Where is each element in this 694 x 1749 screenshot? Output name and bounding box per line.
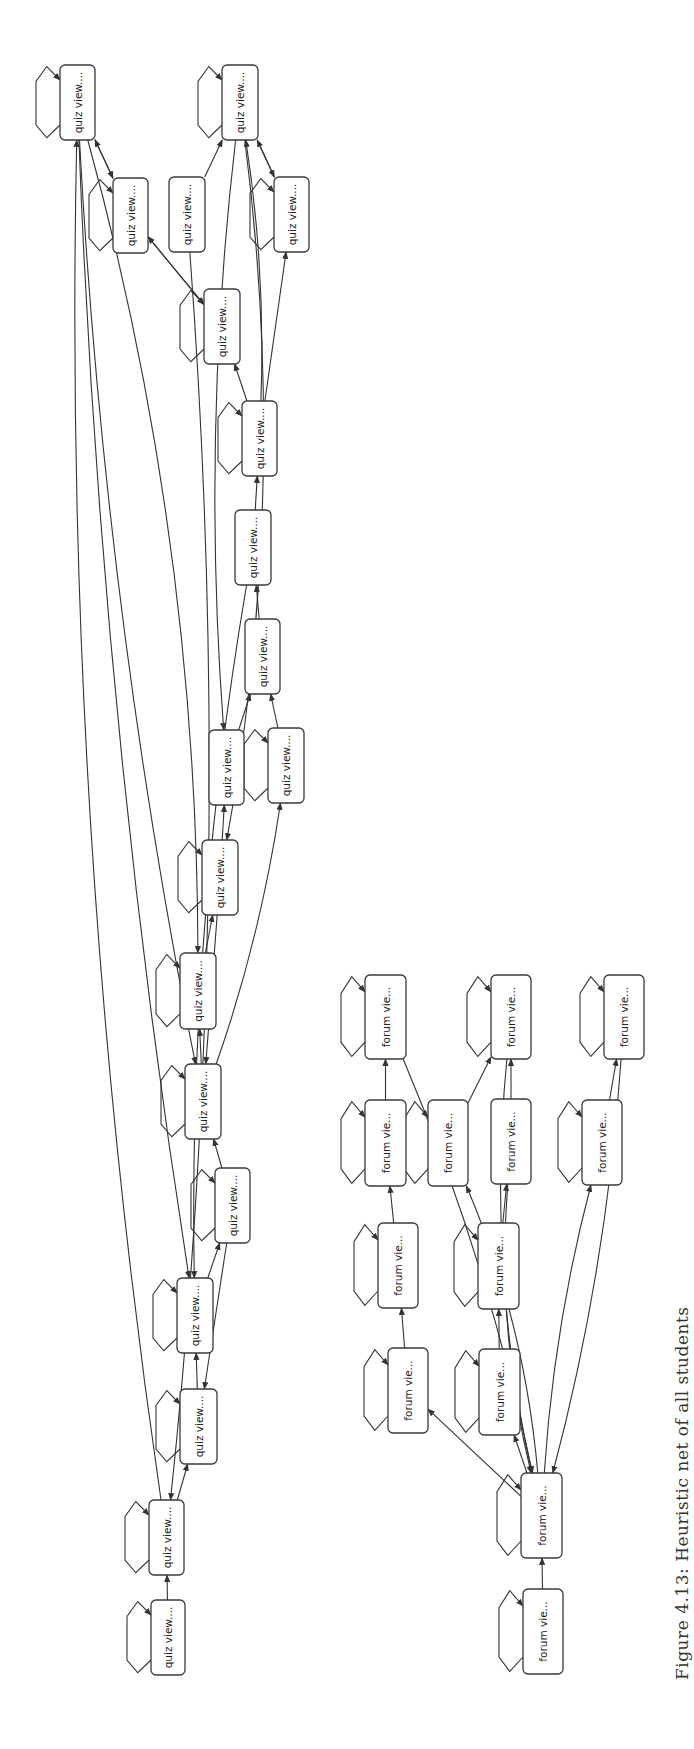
node-F7[interactable]: forum vie... bbox=[582, 1100, 622, 1185]
node-label: quiz view.... bbox=[221, 737, 233, 799]
node-label: quiz view.... bbox=[72, 72, 84, 134]
self-loop-F2 bbox=[467, 977, 491, 1057]
node-F1[interactable]: forum vie... bbox=[365, 975, 406, 1059]
node-Q9[interactable]: quiz view.... bbox=[245, 619, 280, 694]
node-Q13[interactable]: quiz view.... bbox=[180, 953, 216, 1029]
node-Q19[interactable]: quiz view.... bbox=[151, 1600, 185, 1675]
edge-F8-to-F4 bbox=[390, 1186, 394, 1223]
node-label: quiz view.... bbox=[286, 184, 298, 246]
node-F9[interactable]: forum vie... bbox=[478, 1223, 519, 1309]
self-loop-F12 bbox=[497, 1475, 521, 1556]
node-Q15[interactable]: quiz view.... bbox=[215, 1168, 250, 1243]
node-label: quiz view.... bbox=[161, 1507, 173, 1569]
edge-Q15-to-Q14 bbox=[214, 1139, 222, 1168]
node-Q6[interactable]: quiz view.... bbox=[204, 289, 240, 364]
edge-Q7-to-Q5 bbox=[265, 252, 286, 401]
node-Q1[interactable]: quiz view.... bbox=[60, 65, 95, 140]
edge-Q11-to-Q9 bbox=[271, 694, 278, 728]
self-loop-Q18 bbox=[125, 1502, 149, 1573]
node-Q7[interactable]: quiz view.... bbox=[242, 401, 277, 476]
node-F5[interactable]: forum vie... bbox=[428, 1100, 468, 1186]
edge-Q7-to-Q2 bbox=[246, 140, 262, 401]
node-label: quiz view.... bbox=[247, 517, 259, 579]
node-label: quiz view.... bbox=[125, 185, 137, 247]
self-loop-F8 bbox=[354, 1225, 378, 1306]
node-label: quiz view.... bbox=[280, 735, 292, 797]
edge-F12-to-F7 bbox=[544, 1185, 591, 1473]
node-label: forum vie... bbox=[380, 1113, 392, 1173]
self-loop-Q15 bbox=[191, 1170, 215, 1241]
self-loop-Q16 bbox=[153, 1280, 177, 1351]
node-Q12[interactable]: quiz view.... bbox=[202, 840, 238, 915]
node-Q3[interactable]: quiz view.... bbox=[113, 178, 148, 253]
self-loop-Q14 bbox=[161, 1066, 185, 1137]
node-label: quiz view.... bbox=[181, 184, 193, 246]
node-Q2[interactable]: quiz view.... bbox=[222, 65, 258, 140]
node-label: forum vie... bbox=[392, 1235, 404, 1295]
node-Q10[interactable]: quiz view.... bbox=[209, 730, 244, 805]
node-label: forum vie... bbox=[380, 987, 392, 1047]
node-F3[interactable]: forum vie... bbox=[604, 975, 644, 1059]
node-label: quiz view.... bbox=[257, 626, 269, 688]
node-Q8[interactable]: quiz view.... bbox=[235, 510, 271, 585]
self-loop-F1 bbox=[341, 977, 365, 1057]
node-label: quiz view.... bbox=[214, 847, 226, 909]
node-F12[interactable]: forum vie... bbox=[521, 1473, 562, 1558]
node-label: forum vie... bbox=[505, 1111, 517, 1171]
node-label: quiz view.... bbox=[254, 408, 266, 470]
node-label: quiz view.... bbox=[234, 72, 246, 134]
self-loop-F7 bbox=[558, 1102, 582, 1183]
edge-F10-to-F8 bbox=[401, 1308, 404, 1348]
edge-Q1-to-Q14 bbox=[80, 140, 196, 1064]
edge-Q1-to-Q13 bbox=[88, 140, 198, 953]
node-F4[interactable]: forum vie... bbox=[365, 1100, 406, 1186]
node-Q16[interactable]: quiz view.... bbox=[177, 1278, 213, 1353]
self-loop-F10 bbox=[364, 1350, 388, 1431]
edge-Q18-to-Q1 bbox=[75, 140, 161, 1500]
node-F6[interactable]: forum vie... bbox=[491, 1099, 531, 1184]
edge-F5-to-F2 bbox=[468, 1057, 491, 1103]
self-loop-Q1 bbox=[36, 67, 60, 138]
node-label: forum vie... bbox=[618, 987, 630, 1047]
nodes-layer: quiz view....quiz view....quiz view....q… bbox=[60, 65, 644, 1675]
node-label: forum vie... bbox=[442, 1113, 454, 1173]
node-F13[interactable]: forum vie... bbox=[523, 1589, 563, 1674]
node-label: forum vie... bbox=[505, 987, 517, 1047]
edge-Q1-to-Q16 bbox=[79, 140, 189, 1278]
node-label: forum vie... bbox=[596, 1112, 608, 1172]
node-F8[interactable]: forum vie... bbox=[378, 1223, 418, 1308]
node-F10[interactable]: forum vie... bbox=[388, 1348, 428, 1433]
node-label: quiz view.... bbox=[197, 1071, 209, 1133]
self-loop-Q19 bbox=[127, 1602, 151, 1673]
node-Q4[interactable]: quiz view.... bbox=[169, 177, 205, 252]
node-Q11[interactable]: quiz view.... bbox=[268, 728, 304, 803]
node-F11[interactable]: forum vie... bbox=[479, 1349, 520, 1435]
edge-Q17-to-Q16 bbox=[196, 1353, 197, 1389]
node-Q5[interactable]: quiz view.... bbox=[274, 177, 309, 252]
node-F2[interactable]: forum vie... bbox=[491, 975, 531, 1059]
node-label: quiz view.... bbox=[216, 296, 228, 358]
figure-caption: Figure 4.13: Heuristic net of all studen… bbox=[672, 1250, 694, 1680]
self-loop-F4 bbox=[341, 1102, 365, 1184]
edge-Q7-to-Q6 bbox=[235, 364, 247, 401]
node-label: quiz view.... bbox=[189, 1285, 201, 1347]
edge-Q16-to-Q15 bbox=[208, 1243, 220, 1278]
node-Q14[interactable]: quiz view.... bbox=[185, 1064, 221, 1139]
node-label: quiz view.... bbox=[227, 1175, 239, 1237]
self-loop-F11 bbox=[455, 1351, 479, 1433]
node-Q17[interactable]: quiz view.... bbox=[180, 1389, 217, 1464]
self-loop-Q7 bbox=[218, 403, 242, 474]
edge-F13-to-F12 bbox=[542, 1558, 543, 1589]
edge-F7-to-F3 bbox=[610, 1059, 617, 1100]
node-label: forum vie... bbox=[402, 1360, 414, 1420]
self-loop-Q2 bbox=[198, 67, 222, 138]
edges-layer bbox=[36, 67, 621, 1673]
self-loop-Q17 bbox=[156, 1391, 180, 1462]
edge-Q18-to-Q17 bbox=[177, 1464, 187, 1500]
edge-Q14-to-Q13 bbox=[200, 1029, 202, 1064]
self-loop-F9 bbox=[454, 1225, 478, 1307]
node-Q18[interactable]: quiz view.... bbox=[149, 1500, 184, 1575]
node-label: quiz view.... bbox=[192, 960, 204, 1022]
